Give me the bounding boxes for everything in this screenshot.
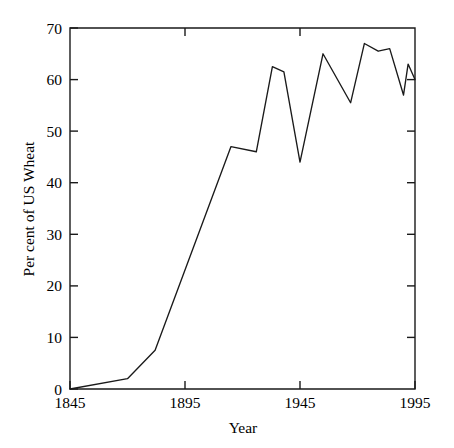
y-tick-label-60: 60 — [47, 71, 63, 88]
plot-frame — [70, 28, 415, 389]
x-tick-label-1845: 1845 — [55, 394, 86, 411]
y-axis-tick-labels: 0 10 20 30 40 50 60 70 — [47, 20, 63, 398]
x-tick-label-1995: 1995 — [400, 394, 431, 411]
x-axis-tick-labels: 1845 1895 1945 1995 — [55, 394, 431, 411]
y-tick-label-20: 20 — [47, 277, 63, 294]
y-tick-label-40: 40 — [47, 174, 63, 191]
y-tick-label-50: 50 — [47, 123, 63, 140]
x-tick-label-1895: 1895 — [170, 394, 201, 411]
chart-figure: 0 10 20 30 40 50 60 70 1845 1895 1945 19… — [0, 0, 454, 448]
x-axis-ticks — [70, 28, 415, 389]
x-tick-label-1945: 1945 — [285, 394, 316, 411]
y-tick-label-30: 30 — [47, 226, 63, 243]
x-axis-title: Year — [229, 419, 258, 436]
y-tick-label-70: 70 — [47, 20, 63, 37]
y-axis-ticks — [70, 28, 415, 389]
data-series-line — [70, 43, 415, 389]
y-tick-label-10: 10 — [47, 329, 63, 346]
y-axis-title: Per cent of US Wheat — [20, 141, 37, 277]
line-chart: 0 10 20 30 40 50 60 70 1845 1895 1945 19… — [0, 0, 454, 448]
